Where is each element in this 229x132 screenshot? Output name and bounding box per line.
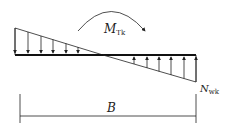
moment-label-main: M <box>104 22 116 36</box>
width-label: B <box>107 102 116 114</box>
downward-load-arrows <box>15 28 78 53</box>
axial-label: Nwk <box>200 84 219 96</box>
axial-label-main: N <box>200 83 209 94</box>
load-diagram: MTk Nwk B <box>0 0 229 132</box>
right-load-outline <box>103 55 196 82</box>
moment-label-sub: Tk <box>116 29 125 37</box>
moment-label: MTk <box>104 23 125 37</box>
upward-load-arrows <box>134 57 196 82</box>
axial-label-sub: wk <box>209 88 219 96</box>
